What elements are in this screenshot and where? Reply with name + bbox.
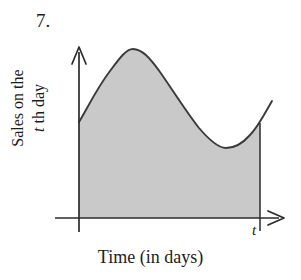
x-axis-label: Time (in days)	[0, 246, 301, 268]
x-axis-tick-label-t: t	[252, 222, 256, 239]
problem-number-label: 7.	[36, 10, 50, 32]
figure-container: 7. Sales on the t th day Time (in days) …	[0, 0, 301, 280]
y-axis-label-line-1: Sales on the	[7, 69, 28, 146]
y-axis-label-line-2: t th day	[28, 84, 49, 132]
y-axis-label-variable-t: t	[30, 128, 47, 132]
y-axis-label-line-2-rest: th day	[30, 84, 47, 128]
shaded-area-under-curve	[79, 49, 260, 218]
y-axis-label: Sales on the t th day	[5, 44, 51, 172]
